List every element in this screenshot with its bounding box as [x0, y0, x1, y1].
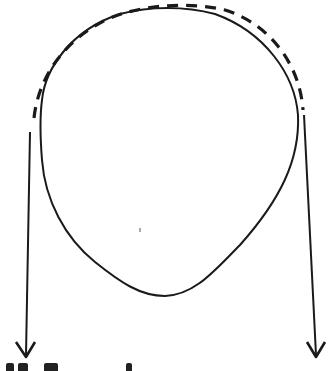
dashed-contact-arc: [34, 5, 303, 118]
left-strand: [26, 132, 30, 355]
right-strand: [304, 115, 316, 355]
cut-off-caption: [0, 362, 200, 371]
body-outline: [41, 8, 299, 296]
pulley-diagram: [0, 0, 330, 371]
